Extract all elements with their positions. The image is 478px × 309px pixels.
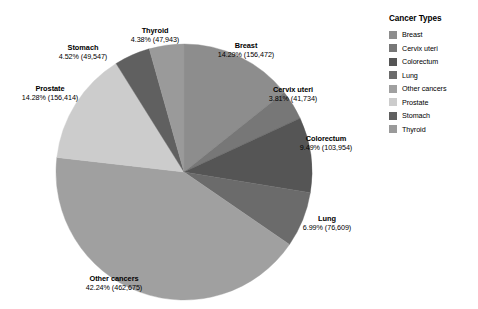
slice-label-thyroid: Thyroid 4.38% (47,943) [118, 26, 192, 45]
slice-label-breast: Breast 14.29% (156,472) [200, 41, 292, 60]
slice-label-other-cancers: Other cancers 42.24% (462,675) [66, 274, 162, 293]
legend-item-label: Colorectum [402, 57, 438, 66]
pie-plot-area: Thyroid 4.38% (47,943) Stomach 4.52% (49… [0, 0, 370, 309]
slice-label-lung-name: Lung [288, 214, 366, 223]
slice-label-stomach-name: Stomach [42, 43, 124, 52]
legend-item-label: Prostate [402, 98, 428, 107]
pie-chart-figure: Thyroid 4.38% (47,943) Stomach 4.52% (49… [0, 0, 478, 309]
slice-label-cervix-uteri-name: Cervix uteri [254, 85, 332, 94]
slice-label-stomach: Stomach 4.52% (49,547) [42, 43, 124, 62]
legend-swatch-icon [389, 31, 397, 39]
legend-swatch-icon [389, 112, 397, 120]
legend-items-list: BreastCervix uteriColorectumLungOther ca… [386, 28, 478, 136]
legend-item-label: Lung [402, 71, 418, 80]
legend-item-label: Thyroid [402, 125, 426, 134]
slice-label-lung: Lung 6.99% (76,609) [288, 214, 366, 233]
slice-label-thyroid-name: Thyroid [118, 26, 192, 35]
legend-swatch-icon [389, 125, 397, 133]
legend-swatch-icon [389, 71, 397, 79]
legend-item-label: Breast [402, 30, 422, 39]
legend-swatch-icon [389, 58, 397, 66]
slice-label-cervix-uteri-value: 3.81% (41,734) [254, 94, 332, 103]
legend-item-breast[interactable]: Breast [386, 28, 478, 41]
slice-label-thyroid-value: 4.38% (47,943) [118, 35, 192, 44]
slice-label-lung-value: 6.99% (76,609) [288, 223, 366, 232]
legend-swatch-icon [389, 98, 397, 106]
legend-swatch-icon [389, 44, 397, 52]
slice-label-breast-name: Breast [200, 41, 292, 50]
legend-item-thyroid[interactable]: Thyroid [386, 123, 478, 136]
slice-label-other-cancers-name: Other cancers [66, 274, 162, 283]
legend-item-cervix-uteri[interactable]: Cervix uteri [386, 42, 478, 55]
slice-label-cervix-uteri: Cervix uteri 3.81% (41,734) [254, 85, 332, 104]
legend-item-other-cancers[interactable]: Other cancers [386, 82, 478, 95]
slice-label-colorectum-value: 9.49% (103,954) [285, 143, 367, 152]
slice-label-prostate-value: 14.28% (156,414) [4, 93, 96, 102]
slice-label-prostate-name: Prostate [4, 84, 96, 93]
legend-item-lung[interactable]: Lung [386, 69, 478, 82]
legend-item-colorectum[interactable]: Colorectum [386, 55, 478, 68]
slice-label-other-cancers-value: 42.24% (462,675) [66, 283, 162, 292]
pie-slices-group [56, 44, 312, 300]
legend-item-label: Cervix uteri [402, 44, 438, 53]
legend-item-prostate[interactable]: Prostate [386, 96, 478, 109]
slice-label-prostate: Prostate 14.28% (156,414) [4, 84, 96, 103]
legend-item-label: Other cancers [402, 84, 447, 93]
slice-label-stomach-value: 4.52% (49,547) [42, 52, 124, 61]
legend-item-label: Stomach [402, 111, 430, 120]
legend-item-stomach[interactable]: Stomach [386, 109, 478, 122]
legend-title: Cancer Types [389, 14, 478, 23]
slice-label-colorectum-name: Colorectum [285, 134, 367, 143]
legend: Cancer Types BreastCervix uteriColorectu… [386, 14, 478, 136]
slice-label-breast-value: 14.29% (156,472) [200, 50, 292, 59]
slice-label-colorectum: Colorectum 9.49% (103,954) [285, 134, 367, 153]
legend-swatch-icon [389, 85, 397, 93]
